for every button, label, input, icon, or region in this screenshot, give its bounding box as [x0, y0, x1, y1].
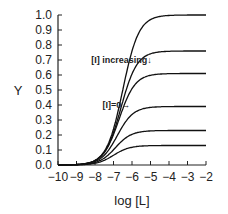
x-axis-title: log [L]: [114, 193, 149, 208]
plot-area: 0.00.10.20.30.40.50.60.70.80.91.0−10−9−8…: [14, 8, 214, 208]
y-tick-label: 1.0: [35, 8, 52, 22]
data-curve: [58, 74, 206, 166]
y-axis-title: Y: [14, 83, 23, 98]
y-tick-label: 0.3: [35, 113, 52, 127]
y-tick-label: 0.5: [35, 83, 52, 97]
annotation: [I] increasing↓: [91, 55, 152, 65]
y-tick-label: 0.1: [35, 143, 52, 157]
y-tick-label: 0.2: [35, 128, 52, 142]
y-tick-label: 0.8: [35, 38, 52, 52]
x-tick-label: −2: [199, 170, 213, 184]
y-tick-label: 0.4: [35, 98, 52, 112]
data-curve: [58, 15, 206, 165]
x-tick-label: −7: [107, 170, 121, 184]
annotation: [I]=0→: [102, 100, 130, 110]
x-tick-label: −9: [70, 170, 84, 184]
chart: 0.00.10.20.30.40.50.60.70.80.91.0−10−9−8…: [0, 0, 228, 214]
x-tick-label: −10: [48, 170, 69, 184]
y-tick-label: 0.6: [35, 68, 52, 82]
x-tick-label: −5: [144, 170, 158, 184]
y-tick-label: 0.7: [35, 53, 52, 67]
data-curve: [58, 107, 206, 166]
x-tick-label: −8: [88, 170, 102, 184]
x-tick-label: −6: [125, 170, 139, 184]
x-tick-label: −4: [162, 170, 176, 184]
y-tick-label: 0.9: [35, 23, 52, 37]
x-tick-label: −3: [181, 170, 195, 184]
